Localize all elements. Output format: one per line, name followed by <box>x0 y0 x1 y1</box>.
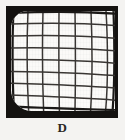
grid-line-horizontal <box>11 23 115 25</box>
grid-line-vertical <box>106 11 108 111</box>
distorted-grid-lines <box>11 11 115 111</box>
grid-line-horizontal <box>11 83 115 88</box>
grid-line-horizontal-bottom-border <box>11 106 115 110</box>
grid-line-vertical <box>59 11 60 111</box>
grid-line-horizontal <box>11 12 115 14</box>
grid-line-horizontal <box>11 95 115 100</box>
figure-root: D <box>0 0 125 140</box>
grid-figure-plate <box>6 6 118 118</box>
figure-caption-label: D <box>0 120 125 136</box>
grid-field <box>11 11 115 111</box>
grid-line-vertical <box>13 11 14 111</box>
